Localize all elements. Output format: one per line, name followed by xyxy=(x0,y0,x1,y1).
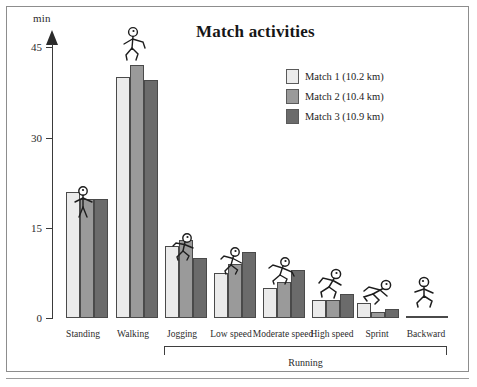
bar-group xyxy=(357,0,399,318)
bar xyxy=(326,300,340,318)
bar xyxy=(406,316,420,318)
low-speed-running-stick-figure-icon xyxy=(216,246,250,276)
bar xyxy=(263,288,277,318)
y-tick-label-15: 15 xyxy=(20,222,42,234)
y-tick-label-0: 0 xyxy=(20,312,42,324)
legend: Match 1 (10.2 km) Match 2 (10.4 km) Matc… xyxy=(286,66,384,126)
legend-item-match-2: Match 2 (10.4 km) xyxy=(286,86,384,106)
legend-swatch-match-3 xyxy=(286,109,299,124)
walking-stick-figure-icon xyxy=(118,26,154,66)
bar xyxy=(434,316,448,318)
standing-stick-figure-icon xyxy=(68,185,102,219)
running-group-label: Running xyxy=(164,357,447,368)
chart-page: Match activities min 45 30 15 0 Standing… xyxy=(0,0,477,387)
high-speed-running-stick-figure-icon xyxy=(313,268,351,300)
category-label: Backward xyxy=(381,329,471,339)
jogging-stick-figure-icon xyxy=(167,232,201,262)
bar xyxy=(385,309,399,318)
bar xyxy=(312,300,326,318)
bar xyxy=(371,312,385,318)
bar-group xyxy=(406,0,448,318)
running-bracket xyxy=(164,346,447,355)
y-axis-arrow-icon xyxy=(46,30,58,45)
y-axis-unit-label: min xyxy=(33,12,51,24)
bar xyxy=(277,282,291,318)
sprinting-stick-figure-icon xyxy=(357,278,399,308)
legend-item-match-1: Match 1 (10.2 km) xyxy=(286,66,384,86)
bar xyxy=(193,258,207,318)
bar xyxy=(214,273,228,318)
y-tick-0 xyxy=(46,318,53,319)
legend-swatch-match-1 xyxy=(286,69,299,84)
legend-item-match-3: Match 3 (10.9 km) xyxy=(286,106,384,126)
legend-label-match-1: Match 1 (10.2 km) xyxy=(305,71,384,82)
bar-group xyxy=(66,0,108,318)
bar xyxy=(116,77,130,318)
y-axis-line xyxy=(52,44,53,319)
bar xyxy=(130,65,144,318)
legend-swatch-match-2 xyxy=(286,89,299,104)
moderate-speed-running-stick-figure-icon xyxy=(265,256,301,286)
bar xyxy=(144,80,158,318)
y-tick-30 xyxy=(46,138,53,139)
bar-group xyxy=(165,0,207,318)
y-tick-label-30: 30 xyxy=(20,132,42,144)
y-tick-15 xyxy=(46,228,53,229)
backward-running-stick-figure-icon xyxy=(408,276,444,310)
y-tick-label-45: 45 xyxy=(20,41,42,53)
legend-label-match-2: Match 2 (10.4 km) xyxy=(305,91,384,102)
y-tick-45 xyxy=(46,47,53,48)
bar-chart-plot: Match activities min 45 30 15 0 Standing… xyxy=(0,0,477,387)
bar xyxy=(420,316,434,318)
legend-label-match-3: Match 3 (10.9 km) xyxy=(305,111,384,122)
